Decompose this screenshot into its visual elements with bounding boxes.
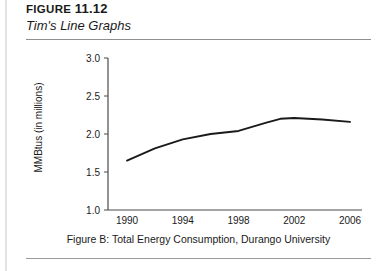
header-divider bbox=[26, 39, 371, 40]
x-tick-label: 2002 bbox=[283, 215, 306, 226]
data-series-group bbox=[127, 118, 350, 161]
y-tick-label: 2.5 bbox=[86, 91, 100, 102]
y-tick-labels: 1.01.52.02.53.0 bbox=[86, 53, 108, 216]
figure-number-line: FIGURE 11.12 bbox=[26, 2, 371, 16]
x-tick-labels: 19901994199820022006 bbox=[116, 215, 362, 226]
figure-subtitle: Tim's Line Graphs bbox=[26, 17, 371, 34]
x-tick-label: 1998 bbox=[227, 215, 250, 226]
chart-container: MMBtus (in millions) 1.01.52.02.53.0 199… bbox=[0, 44, 387, 249]
y-tick-label: 3.0 bbox=[86, 53, 100, 64]
figure-prefix-label: FIGURE bbox=[26, 3, 71, 15]
x-tick-label: 2006 bbox=[339, 215, 362, 226]
figure-number-label: 11.12 bbox=[75, 1, 108, 16]
x-tick-label: 1990 bbox=[116, 215, 139, 226]
y-tick-label: 1.0 bbox=[86, 205, 100, 216]
y-tick-label: 1.5 bbox=[86, 167, 100, 178]
line-chart-svg: 1.01.52.02.53.0 19901994199820022006 bbox=[0, 44, 387, 249]
y-tick-label: 2.0 bbox=[86, 129, 100, 140]
figure-header: FIGURE 11.12 Tim's Line Graphs bbox=[26, 2, 371, 34]
caption-divider bbox=[26, 258, 371, 259]
x-tick-label: 1994 bbox=[172, 215, 195, 226]
figure-caption: Figure B: Total Energy Consumption, Dura… bbox=[26, 233, 371, 246]
data-line bbox=[127, 118, 350, 161]
